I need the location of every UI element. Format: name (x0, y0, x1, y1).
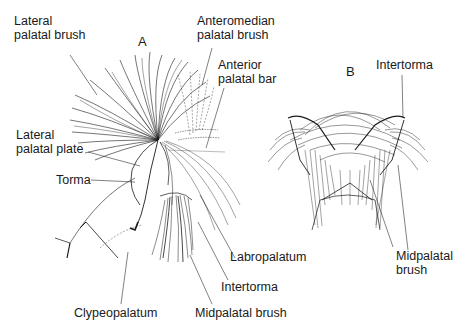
label-anterior-palatal-bar: Anterior palatal bar (218, 58, 276, 86)
panel-label-a: A (138, 34, 147, 49)
label-clypeopalatum: Clypeopalatum (74, 306, 157, 320)
figure-B-drawing (268, 75, 428, 250)
label-intertorma-a: Intertorma (221, 280, 278, 294)
lateral-palatal-brush-hairs (70, 52, 210, 160)
anterior-palatal-bar-shape (168, 129, 225, 152)
label-torma: Torma (56, 173, 91, 187)
label-anteromedian-palatal-brush: Anteromedian palatal brush (197, 14, 275, 42)
label-lateral-palatal-brush: Lateral palatal brush (14, 14, 86, 42)
anatomical-figure: A B Lateral palatal brush Anteromedian p… (0, 0, 465, 331)
label-intertorma-b: Intertorma (376, 58, 433, 72)
label-lateral-palatal-plate: Lateral palatal plate (16, 128, 83, 156)
label-labropalatum: Labropalatum (230, 250, 306, 264)
panel-label-b: B (346, 64, 355, 79)
label-midpalatal-brush-a: Midpalatal brush (195, 306, 287, 320)
leader-lines-A (70, 48, 235, 304)
midpalatal-brush-A-hairs (152, 195, 193, 262)
label-midpalatal-brush-b: Midpalatal brush (396, 249, 453, 277)
